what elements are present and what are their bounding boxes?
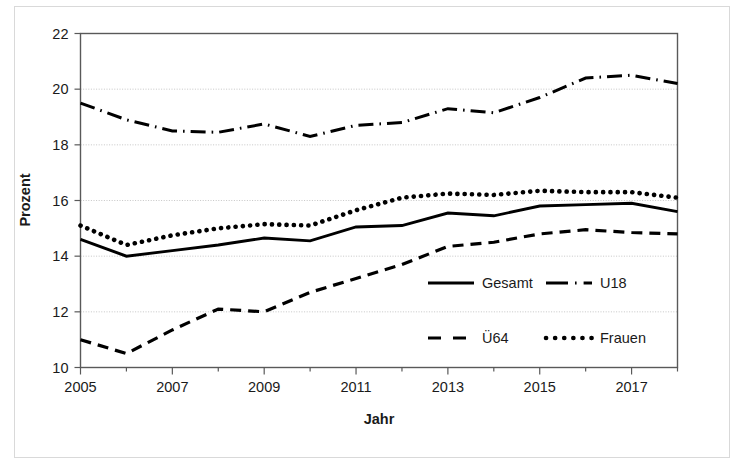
chart-legend: GesamtU18Ü64Frauen — [428, 275, 646, 346]
x-tick-label: 2005 — [64, 379, 96, 395]
x-tick-label: 2015 — [524, 379, 556, 395]
y-axis-ticks — [75, 34, 81, 368]
x-tick-label: 2009 — [248, 379, 280, 395]
x-axis-title: Jahr — [364, 411, 395, 427]
series-line-u18 — [81, 75, 678, 136]
legend-label-u18: U18 — [600, 275, 627, 291]
y-tick-label: 20 — [52, 81, 68, 97]
y-tick-label: 16 — [52, 193, 68, 209]
legend-label--64: Ü64 — [482, 329, 509, 346]
line-chart-svg: 10121416182022 2005200720092011201320152… — [0, 0, 745, 468]
y-tick-label: 14 — [52, 248, 68, 264]
y-axis-title: Prozent — [17, 173, 33, 226]
chart-figure: 10121416182022 2005200720092011201320152… — [0, 0, 745, 468]
legend-label-frauen: Frauen — [600, 330, 646, 346]
gridlines — [81, 89, 678, 312]
y-tick-label: 10 — [52, 360, 68, 376]
x-axis-tick-labels: 2005200720092011201320152017 — [64, 379, 647, 395]
x-tick-label: 2017 — [615, 379, 647, 395]
y-tick-label: 18 — [52, 137, 68, 153]
y-axis-tick-labels: 10121416182022 — [52, 26, 68, 376]
x-tick-label: 2013 — [432, 379, 464, 395]
legend-label-gesamt: Gesamt — [482, 275, 533, 291]
series-line-frauen — [81, 191, 678, 245]
y-tick-label: 22 — [52, 26, 68, 42]
x-tick-label: 2007 — [156, 379, 188, 395]
series-line--64 — [81, 230, 678, 354]
x-tick-label: 2011 — [340, 379, 371, 395]
x-axis-ticks — [81, 368, 678, 375]
y-tick-label: 12 — [52, 304, 68, 320]
